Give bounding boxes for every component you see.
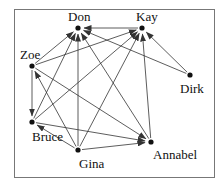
edge-dirk-to-kay — [146, 32, 187, 72]
edge-dirk-to-don — [84, 30, 187, 73]
edge-annabel-to-kay — [142, 34, 150, 138]
edge-gina-to-kay — [80, 33, 139, 146]
edge-zoe-to-kay — [36, 30, 137, 65]
node-annabel — [148, 139, 153, 144]
node-label-dirk: Dirk — [180, 82, 204, 95]
graph-diagram: Don Kay Zoe Dirk Bruce Gina Annabel — [0, 0, 224, 188]
node-label-zoe: Zoe — [20, 48, 40, 61]
node-label-gina: Gina — [79, 157, 104, 170]
node-don — [75, 25, 80, 30]
node-label-bruce: Bruce — [32, 130, 63, 143]
node-label-annabel: Annabel — [153, 148, 197, 161]
node-dirk — [187, 72, 192, 77]
node-bruce — [29, 119, 34, 124]
edge-gina-to-annabel — [82, 143, 145, 150]
edge-annabel-to-don — [81, 33, 149, 139]
node-zoe — [29, 63, 34, 68]
node-label-don: Don — [68, 10, 90, 23]
node-kay — [139, 25, 144, 30]
node-label-kay: Kay — [136, 10, 158, 23]
node-gina — [75, 147, 80, 152]
edge-bruce-to-kay — [35, 32, 137, 120]
